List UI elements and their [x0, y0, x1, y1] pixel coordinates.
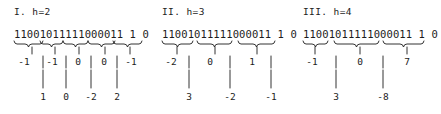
- tier2-value: -2: [85, 92, 96, 102]
- tier2-value: 3: [333, 92, 339, 102]
- tier1-value: -2: [165, 57, 176, 67]
- tier1-value: -1: [125, 57, 136, 67]
- panel-h2: I. h=2 11001011111000011 1 0: [14, 0, 150, 114]
- tier2-value: -1: [265, 92, 276, 102]
- tier1-value: 0: [101, 57, 107, 67]
- tier1-value: -1: [46, 57, 57, 67]
- tier1-value: 0: [207, 57, 213, 67]
- brace-layer-h4: [303, 0, 439, 114]
- tier1-value: -1: [18, 57, 29, 67]
- tier2-value: 1: [40, 92, 46, 102]
- tier1-value: 0: [75, 57, 81, 67]
- bit-decomposition-figure: I. h=2 11001011111000011 1 0: [0, 0, 441, 114]
- panel-h4: III. h=4 11001011111000011 1 0 -1: [303, 0, 439, 114]
- tier1-value: 0: [357, 57, 363, 67]
- tier2-value: 2: [114, 92, 120, 102]
- tier2-value: 3: [186, 92, 192, 102]
- panel-h3: II. h=3 11001011111000011 1 0: [162, 0, 298, 114]
- tier2-value: -8: [377, 92, 388, 102]
- tier1-value: 1: [249, 57, 255, 67]
- tier1-value: 7: [404, 57, 410, 67]
- tier2-value: -2: [224, 92, 235, 102]
- tier1-value: -1: [306, 57, 317, 67]
- tier2-value: 0: [63, 92, 69, 102]
